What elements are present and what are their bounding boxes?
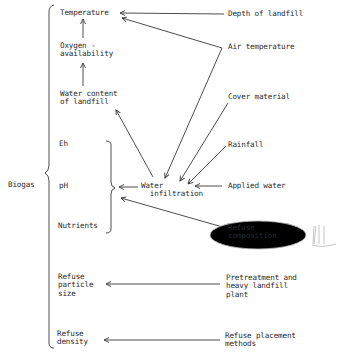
depth-of-landfill-label: Depth of landfill <box>228 10 303 18</box>
biogas-brace <box>45 5 54 348</box>
applied-water-label: Applied water <box>228 182 285 190</box>
water-infiltration-label: Water infiltration <box>141 182 203 199</box>
refuse-particle-size-label: Refuse particle size <box>58 273 93 298</box>
cover-material-label: Cover material <box>228 93 290 101</box>
pencil-scribble <box>314 226 316 244</box>
oxygen-availability-label: Oxygen - availability <box>60 42 113 59</box>
refuse-density-label: Refuse density <box>57 330 88 347</box>
biogas-factors-diagram: Biogas Temperature Oxygen - availability… <box>0 0 352 360</box>
eh-ph-nutrients-brace <box>106 141 115 233</box>
refuse-placement-methods-label: Refuse placement methods <box>225 332 296 349</box>
air-temperature-label: Air temperature <box>228 43 294 51</box>
rainfall-label: Rainfall <box>228 141 263 149</box>
refuse-composition-label: Refuse composition <box>228 224 277 241</box>
ph-label: pH <box>59 182 68 190</box>
water-content-label: Water content of landfill <box>60 90 117 107</box>
biogas-label: Biogas <box>8 181 35 189</box>
nutrients-label: Nutrients <box>58 222 98 230</box>
eh-label: Eh <box>59 140 68 148</box>
pretreatment-label: Pretreatment and heavy landfill plant <box>226 274 297 299</box>
connector-lines <box>0 0 352 360</box>
temperature-label: Temperature <box>60 9 109 17</box>
